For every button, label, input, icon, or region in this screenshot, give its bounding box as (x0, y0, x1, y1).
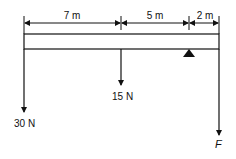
dimension-label-7m: 7 m (64, 10, 81, 21)
beam (24, 34, 219, 49)
beam-diagram: 7 m 5 m 2 m 30 N 15 N F (0, 0, 236, 159)
force-label-30n: 30 N (14, 118, 35, 129)
dimension-label-5m: 5 m (147, 10, 164, 21)
dimension-label-2m: 2 m (197, 10, 214, 21)
dimension-ticks (24, 16, 219, 34)
support-triangle-icon (183, 49, 195, 57)
force-label-f: F (215, 138, 223, 150)
force-label-15n: 15 N (112, 91, 133, 102)
